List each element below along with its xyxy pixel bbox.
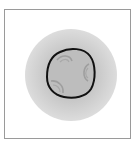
cell-icon — [0, 0, 134, 141]
cell-body — [47, 49, 95, 98]
